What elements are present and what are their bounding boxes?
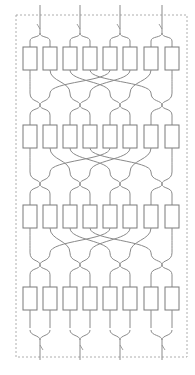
shuffle-wire	[90, 228, 130, 253]
split-branch	[120, 105, 130, 125]
processing-node-box	[165, 125, 179, 148]
merge-branch	[162, 330, 172, 340]
merge-branch	[70, 93, 80, 105]
split-branch	[70, 105, 80, 125]
merge-branch	[162, 253, 172, 265]
split-branch	[70, 33, 80, 47]
processing-node-box	[23, 205, 37, 228]
split-branch	[110, 265, 120, 287]
split-branch	[40, 105, 50, 125]
processing-node-box	[123, 125, 137, 148]
merge-branch	[120, 330, 130, 340]
split-branch	[80, 265, 90, 287]
shuffle-wire	[130, 70, 151, 93]
processing-node-box	[144, 287, 158, 310]
split-branch	[162, 105, 172, 125]
shuffle-wire	[70, 148, 110, 172]
merge-branch	[120, 172, 130, 184]
processing-node-box	[43, 287, 57, 310]
split-branch	[70, 184, 80, 205]
merge-branch	[40, 253, 50, 265]
processing-node-box	[123, 287, 137, 310]
processing-node-box	[144, 125, 158, 148]
merge-branch	[80, 253, 90, 265]
processing-node-box	[144, 205, 158, 228]
processing-node-box	[43, 47, 57, 70]
merge-branch	[30, 253, 40, 265]
split-branch	[151, 184, 162, 205]
shuffle-wire	[130, 148, 151, 172]
processing-node-box	[63, 287, 77, 310]
processing-node-box	[123, 47, 137, 70]
shuffle-wire	[90, 70, 151, 93]
split-branch	[30, 105, 40, 125]
processing-node-box	[43, 125, 57, 148]
merge-branch	[110, 253, 120, 265]
split-branch	[40, 33, 50, 47]
merge-branch	[80, 330, 90, 340]
split-branch	[120, 33, 130, 47]
split-branch	[70, 265, 80, 287]
split-branch	[151, 33, 162, 47]
split-branch	[30, 184, 40, 205]
merge-branch	[70, 172, 80, 184]
processing-node-box	[165, 287, 179, 310]
split-branch	[162, 265, 172, 287]
merge-branch	[70, 253, 80, 265]
processing-node-box	[165, 47, 179, 70]
merge-branch	[30, 330, 40, 340]
processing-node-box	[83, 287, 97, 310]
merge-branch	[80, 172, 90, 184]
shuffle-wire	[50, 228, 110, 253]
shuffle-wire	[50, 148, 70, 172]
merge-branch	[40, 93, 50, 105]
processing-node-box	[23, 125, 37, 148]
processing-node-box	[63, 47, 77, 70]
processing-node-box	[63, 205, 77, 228]
shuffle-wire	[90, 228, 151, 253]
processing-node-box	[63, 125, 77, 148]
split-branch	[151, 105, 162, 125]
split-branch	[162, 33, 172, 47]
split-branch	[110, 33, 120, 47]
processing-node-box	[103, 47, 117, 70]
split-branch	[120, 184, 130, 205]
merge-branch	[30, 172, 40, 184]
processing-node-box	[43, 205, 57, 228]
merge-branch	[40, 172, 50, 184]
processing-node-box	[103, 205, 117, 228]
split-branch	[80, 33, 90, 47]
processing-node-box	[83, 125, 97, 148]
merge-branch	[151, 253, 162, 265]
shuffle-wire	[70, 70, 110, 93]
split-branch	[80, 105, 90, 125]
merge-branch	[40, 330, 50, 340]
merge-branch	[110, 93, 120, 105]
split-branch	[120, 265, 130, 287]
split-branch	[40, 265, 50, 287]
network-diagram	[0, 0, 195, 375]
merge-branch	[120, 253, 130, 265]
split-branch	[110, 105, 120, 125]
shuffle-wire	[90, 148, 130, 172]
merge-branch	[110, 172, 120, 184]
merge-branch	[162, 172, 172, 184]
merge-branch	[162, 93, 172, 105]
shuffle-wire	[90, 148, 151, 172]
shuffle-wire	[50, 228, 70, 253]
merge-branch	[120, 93, 130, 105]
processing-node-box	[103, 125, 117, 148]
split-branch	[80, 184, 90, 205]
processing-node-box	[103, 287, 117, 310]
shuffle-wire	[90, 70, 130, 93]
processing-node-box	[144, 47, 158, 70]
merge-branch	[151, 330, 162, 340]
merge-branch	[151, 172, 162, 184]
merge-branch	[110, 330, 120, 340]
merge-branch	[80, 93, 90, 105]
merge-branch	[70, 330, 80, 340]
split-branch	[30, 265, 40, 287]
processing-node-box	[83, 205, 97, 228]
shuffle-wire	[70, 228, 110, 253]
split-branch	[151, 265, 162, 287]
